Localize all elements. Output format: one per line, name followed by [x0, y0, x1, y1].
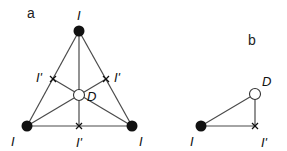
midpoint-right-label: I' [114, 70, 121, 85]
edge-vertex-center [201, 94, 255, 126]
panel-b: b I D I' [190, 32, 271, 150]
vertex-node [196, 121, 207, 132]
center-label: D [87, 89, 96, 104]
vertex-bottom-right-node [127, 121, 138, 132]
midpoint-label: I' [261, 135, 268, 150]
symmetry-diagram: a I I I I' I' I' D b [0, 0, 287, 151]
panel-a: a I I I I' I' I' D [11, 5, 143, 150]
vertex-bottom-left-label: I [11, 134, 15, 149]
midpoint-bottom-label: I' [76, 135, 83, 150]
vertex-top-node [74, 26, 85, 37]
panel-b-label: b [248, 32, 256, 48]
vertex-bottom-right-label: I [139, 134, 143, 149]
panel-a-label: a [27, 5, 35, 21]
center-open-node [74, 90, 85, 101]
center-label: D [262, 74, 271, 89]
midpoint-right-cross-icon [103, 76, 109, 82]
vertex-label: I [190, 134, 194, 149]
vertex-top-label: I [77, 8, 81, 23]
midpoint-left-cross-icon [50, 76, 56, 82]
vertex-bottom-left-node [22, 121, 33, 132]
midpoint-left-label: I' [36, 70, 43, 85]
center-open-node [250, 89, 261, 100]
